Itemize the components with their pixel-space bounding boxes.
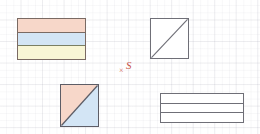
cross-mark-icon: × bbox=[119, 67, 124, 75]
band-blue[interactable] bbox=[18, 33, 85, 47]
worksheet-canvas: × S bbox=[0, 0, 260, 134]
shape-square-split-triangles[interactable] bbox=[60, 84, 99, 127]
center-annotation: × S bbox=[119, 60, 139, 78]
band-top-empty[interactable] bbox=[161, 94, 243, 104]
split-triangles-icon bbox=[61, 85, 98, 126]
diagonal-line-icon bbox=[151, 19, 188, 58]
band-pink[interactable] bbox=[18, 19, 85, 33]
band-bottom-empty[interactable] bbox=[161, 113, 243, 122]
shape-banded-empty-rectangle[interactable] bbox=[160, 93, 244, 123]
shape-square-with-diagonal[interactable] bbox=[150, 18, 189, 59]
shape-banded-colored-rectangle[interactable] bbox=[17, 18, 86, 60]
annotation-letter-s: S bbox=[126, 60, 132, 71]
band-yellow[interactable] bbox=[18, 46, 85, 59]
band-middle-empty[interactable] bbox=[161, 104, 243, 114]
